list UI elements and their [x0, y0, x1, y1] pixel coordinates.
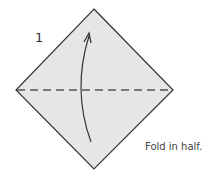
instruction-caption: Fold in half.	[145, 141, 202, 152]
step-number: 1	[35, 30, 43, 45]
origami-step-diagram: 1 Fold in half.	[0, 0, 222, 176]
